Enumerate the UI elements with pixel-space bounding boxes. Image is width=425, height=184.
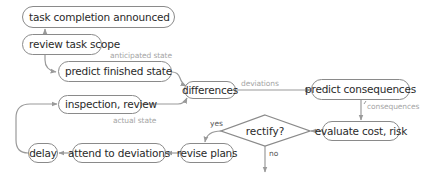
edge-label-deviations: deviations (241, 80, 279, 88)
node-label: predict consequences (305, 84, 416, 95)
node-label: inspection, review (65, 99, 157, 110)
edge-label-actual-state: actual state (113, 117, 156, 125)
node-label: evaluate cost, risk (315, 126, 407, 137)
node-inspection-review: inspection, review (58, 95, 142, 114)
edge-rectify-yes-to-revise (205, 131, 221, 142)
node-label: task completion announced (29, 12, 170, 23)
flow-diagram: task completion announced review task sc… (0, 0, 425, 184)
node-attend-to-deviations: attend to deviations (72, 143, 166, 163)
node-predict-finished-state: predict finished state (58, 61, 172, 82)
node-label: predict finished state (65, 66, 172, 77)
node-rectify-label: rectify? (246, 126, 285, 137)
node-evaluate-cost-risk: evaluate cost, risk (322, 121, 400, 141)
edge-label-yes: yes (210, 120, 223, 128)
node-label: revise plans (177, 148, 238, 159)
node-task-completion-announced: task completion announced (22, 6, 175, 28)
edge-review-to-predict-finished (45, 55, 56, 72)
node-revise-plans: revise plans (180, 143, 234, 163)
node-label: attend to deviations (68, 148, 170, 159)
edge-label-no: no (269, 150, 278, 158)
edge-label-anticipated-state: anticipated state (110, 52, 172, 60)
node-predict-consequences: predict consequences (311, 79, 410, 100)
node-review-task-scope: review task scope (22, 34, 102, 55)
node-differences: differences (184, 81, 236, 99)
node-label: delay (29, 148, 57, 159)
node-label: review task scope (29, 39, 120, 50)
edge-label-consequences: consequences (367, 103, 419, 111)
node-label: differences (182, 85, 238, 96)
node-delay: delay (28, 143, 58, 163)
